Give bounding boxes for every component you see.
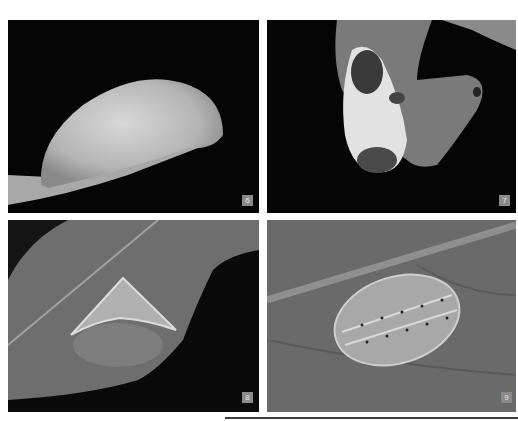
photo-panel-8: 8 <box>8 220 259 412</box>
photo-8-image <box>8 220 259 412</box>
figure-number-badge: 6 <box>242 195 253 206</box>
photo-7-image <box>267 20 516 213</box>
figure-number-badge: 7 <box>499 195 510 206</box>
photo-9-image <box>267 220 516 412</box>
photo-panel-6: 6 <box>8 20 259 213</box>
figure-number-badge: 8 <box>242 392 253 403</box>
figure-number-badge: 9 <box>501 392 512 403</box>
photo-6-image <box>8 20 259 213</box>
photo-panel-9: 9 <box>267 220 516 412</box>
page-rule <box>225 417 518 419</box>
photo-panel-7: 7 <box>267 20 516 213</box>
